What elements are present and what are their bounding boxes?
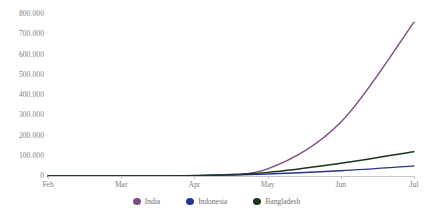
x-axis-tick-mark xyxy=(194,176,195,179)
x-axis-tick-label: Jul xyxy=(410,180,419,189)
x-axis-tick-label: Apr xyxy=(189,180,201,189)
y-axis-tick-label: 600.000 xyxy=(0,51,44,59)
y-axis-tick-label: 700.000 xyxy=(0,30,44,38)
legend-item-indonesia[interactable]: Indonesia xyxy=(186,197,227,206)
chart-legend: IndiaIndonesiaBangladesh xyxy=(0,194,433,208)
y-axis-tick-label: 800.000 xyxy=(0,10,44,18)
legend-item-india[interactable]: India xyxy=(133,197,160,206)
plot-area xyxy=(48,14,414,176)
y-axis-tick-label: 100.000 xyxy=(0,152,44,160)
x-axis-tick-mark xyxy=(121,176,122,179)
series-line-bangladesh xyxy=(48,152,414,176)
y-axis-tick-label: 400.000 xyxy=(0,91,44,99)
x-axis-tick-label: Jun xyxy=(336,180,346,189)
legend-label: India xyxy=(145,197,160,206)
x-axis-tick-label: Feb xyxy=(42,180,53,189)
x-axis-tick-label: Mar xyxy=(115,180,128,189)
x-axis-tick-mark xyxy=(341,176,342,179)
circle-marker-indonesia-icon xyxy=(186,198,194,205)
y-axis-tick-label: 0 xyxy=(0,172,44,180)
series-canvas xyxy=(48,14,414,176)
legend-item-bangladesh[interactable]: Bangladesh xyxy=(253,197,300,206)
y-axis: 800.000700.000600.000500.000400.000300.0… xyxy=(0,0,44,213)
x-axis-tick-mark xyxy=(414,176,415,179)
x-axis-line xyxy=(48,176,414,177)
x-axis-tick-label: May xyxy=(261,180,275,189)
legend-label: Indonesia xyxy=(198,197,227,206)
legend-label: Bangladesh xyxy=(265,197,300,206)
y-axis-tick-label: 500.000 xyxy=(0,71,44,79)
x-axis-tick-mark xyxy=(268,176,269,179)
series-line-india xyxy=(48,22,414,176)
x-axis-tick-mark xyxy=(48,176,49,179)
circle-marker-india-icon xyxy=(133,198,141,205)
y-axis-tick-label: 200.000 xyxy=(0,132,44,140)
line-chart: 800.000700.000600.000500.000400.000300.0… xyxy=(0,0,433,213)
y-axis-tick-label: 300.000 xyxy=(0,111,44,119)
circle-marker-bangladesh-icon xyxy=(253,198,261,205)
